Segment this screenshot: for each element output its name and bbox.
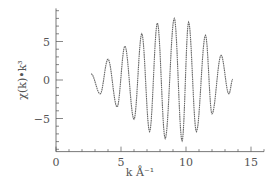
x-axis-label: k Å⁻¹ xyxy=(126,165,154,179)
x-tick-label: 10 xyxy=(179,156,193,169)
y-tick-label: 0 xyxy=(43,74,50,87)
series-line xyxy=(91,18,233,140)
ticks: 051015−505 xyxy=(34,11,264,169)
chart: 051015−505 k Å⁻¹ χ(k)•k³ xyxy=(0,0,274,188)
y-axis-label: χ(k)•k³ xyxy=(16,60,29,99)
plot-area xyxy=(91,18,233,140)
x-tick-label: 15 xyxy=(244,156,258,169)
x-tick-label: 0 xyxy=(53,156,60,169)
y-tick-label: −5 xyxy=(34,113,50,126)
y-tick-label: 5 xyxy=(43,36,50,49)
x-tick-label: 5 xyxy=(118,156,125,169)
